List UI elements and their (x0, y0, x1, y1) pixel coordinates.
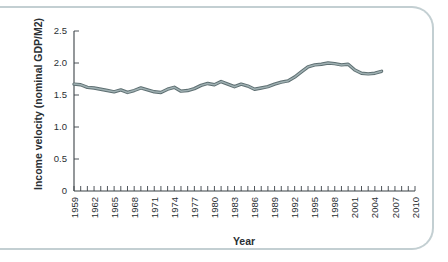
x-tick-label: 1965 (109, 197, 120, 218)
x-tick-label: 1980 (209, 197, 220, 218)
x-tick-label: 1992 (289, 197, 300, 218)
x-tick-label: 2007 (390, 197, 401, 218)
y-tick-label: 1.5 (54, 89, 67, 100)
x-tick-label: 1959 (69, 197, 80, 218)
income-velocity-line-chart: Income velocity (nominal GDP/M2) 2.5 2.0… (0, 0, 448, 262)
y-axis-title: Income velocity (nominal GDP/M2) (32, 18, 44, 190)
chart-plot-area: Income velocity (nominal GDP/M2) 2.5 2.0… (0, 0, 448, 262)
y-tick-label: 0 (62, 185, 67, 196)
y-axis-tick-marks (74, 31, 79, 159)
x-tick-label: 1971 (149, 197, 160, 218)
x-tick-label: 1995 (309, 197, 320, 218)
x-tick-label: 1968 (129, 197, 140, 218)
series-outline (74, 63, 382, 92)
y-tick-label: 2.5 (54, 25, 67, 36)
x-tick-label: 2001 (349, 197, 360, 218)
x-tick-label: 1962 (89, 197, 100, 218)
y-axis-tick-labels: 2.5 2.0 1.5 1.0 0.5 0 (54, 25, 67, 196)
income-velocity-series (74, 63, 382, 92)
x-tick-label: 2010 (410, 197, 421, 218)
figure-root: Income velocity (nominal GDP/M2) 2.5 2.0… (0, 0, 448, 262)
x-tick-label: 1977 (189, 197, 200, 218)
y-tick-label: 1.0 (54, 121, 67, 132)
x-tick-label: 1974 (169, 197, 180, 218)
x-tick-label: 1989 (269, 197, 280, 218)
x-axis-title: Year (233, 235, 255, 247)
x-tick-label: 1986 (249, 197, 260, 218)
x-tick-label: 1983 (229, 197, 240, 218)
x-tick-label: 1998 (329, 197, 340, 218)
x-tick-label: 2004 (369, 197, 380, 218)
y-tick-label: 2.0 (54, 57, 67, 68)
y-tick-label: 0.5 (54, 153, 67, 164)
